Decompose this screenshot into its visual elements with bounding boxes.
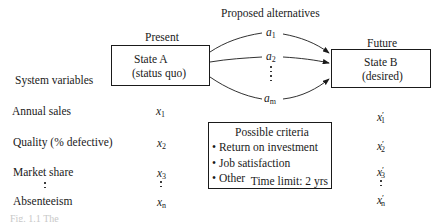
future-value-x2-prime: x′2 [377,139,385,154]
arrow-a2-right [283,57,329,63]
criteria-time-limit: Time limit: 2 yrs [251,175,328,187]
arrow-a2-left [210,57,262,62]
arrow-am-right [283,79,329,99]
alternatives-ellipsis [270,66,272,84]
system-variables-title: System variables [15,74,93,86]
alternative-a2: a2 [266,50,276,64]
future-values-ellipsis [380,180,382,189]
criteria-title: Possible criteria [235,126,309,138]
variable-label-market-share: Market share [13,166,73,178]
alternative-am: am [264,92,276,106]
criteria-item-job-satisfaction: • Job satisfaction [212,157,290,169]
future-value-xn-prime: x′n [377,193,385,208]
bullet-icon: • [212,157,216,169]
future-value-x3-prime: x′3 [377,165,385,180]
present-value-x1: x1 [156,105,165,119]
bullet-icon: • [212,141,216,153]
criteria-item-other: • Other [212,172,245,184]
future-value-x1-prime: x′1 [377,110,385,125]
criteria-box: Possible criteria • Return on investment… [208,122,332,189]
alternative-a1: a1 [266,26,276,40]
present-value-x3: x3 [157,167,166,181]
present-value-x2: x2 [157,137,166,151]
present-values-ellipsis [160,181,162,190]
variables-label-ellipsis [44,182,46,191]
bullet-icon: • [212,172,216,184]
variable-label-quality: Quality (% defective) [13,136,113,148]
arrow-a1-left [210,33,262,52]
arrow-a1-right [283,34,329,53]
present-value-xn: xn [157,196,166,210]
criteria-item-roi: • Return on investment [212,141,318,153]
variable-label-absenteeism: Absenteeism [13,195,72,207]
variable-label-annual-sales: Annual sales [12,105,71,117]
figure-caption: Fig. 1.1 The [10,213,59,222]
arrow-am-left [210,77,262,99]
